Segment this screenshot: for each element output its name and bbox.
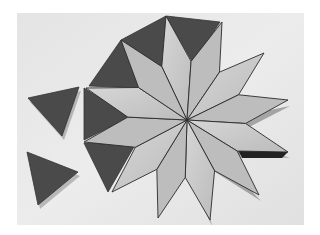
tile-star-photo <box>0 0 320 235</box>
